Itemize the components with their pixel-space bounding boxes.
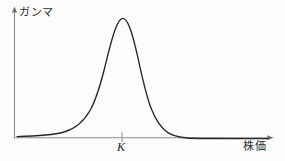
strike-tick-label: K [117,141,125,153]
x-axis-arrowhead [267,135,273,140]
gamma-curve-path [17,18,268,138]
x-axis-label: 株価 [243,141,266,152]
y-axis-label: ガンマ [19,7,54,18]
gamma-curve-figure: ガンマ 株価 K [0,0,285,161]
figure-canvas [0,0,285,161]
y-axis-arrowhead [12,7,17,13]
